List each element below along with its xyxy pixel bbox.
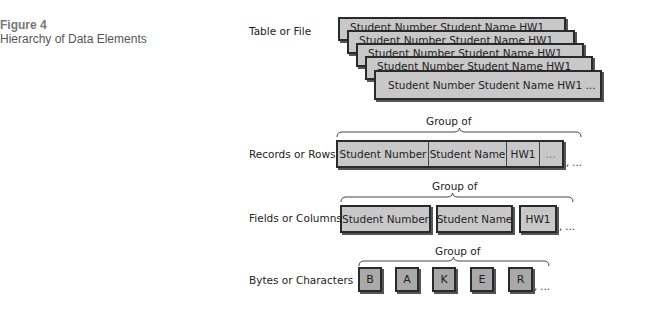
group-label-records: Group of	[426, 115, 471, 127]
label-records: Records or Rows	[249, 148, 335, 160]
record-cell: Student Number	[338, 142, 429, 166]
fields-ellipsis: , ...	[559, 221, 575, 232]
label-characters: Bytes or Characters	[249, 274, 353, 286]
brace-fields	[340, 193, 575, 203]
field-box: Student Name	[436, 205, 513, 233]
label-fields: Fields or Columns	[249, 212, 342, 224]
char-box: E	[470, 267, 494, 292]
field-box: Student Number	[340, 205, 431, 233]
record-cell: ...	[540, 142, 561, 166]
char-box: K	[432, 267, 456, 292]
char-box: A	[395, 267, 419, 292]
record-cell: HW1	[507, 142, 540, 166]
char-box: R	[508, 267, 533, 292]
record-row: Student Number Student Name HW1 ...	[336, 140, 564, 168]
records-ellipsis: , ...	[566, 157, 582, 168]
record-cell: Student Name	[429, 142, 507, 166]
field-box: HW1	[519, 205, 557, 233]
brace-records	[336, 128, 583, 138]
table-row: Student Number Student Name HW1 ...	[374, 70, 602, 100]
group-label-fields: Group of	[432, 180, 477, 192]
characters-ellipsis: , ...	[534, 281, 550, 292]
char-box: B	[358, 267, 382, 292]
label-table: Table or File	[249, 25, 311, 37]
figure-title: Hierarchy of Data Elements	[0, 32, 147, 46]
group-label-characters: Group of	[435, 245, 480, 257]
figure-number: Figure 4	[0, 18, 47, 32]
brace-characters	[358, 257, 552, 267]
